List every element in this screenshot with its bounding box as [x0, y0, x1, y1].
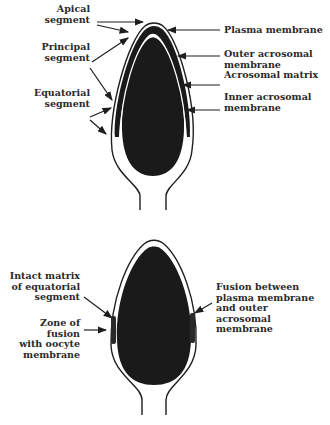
- label-equatorial-segment: Equatorial segment: [5, 88, 90, 109]
- bottom-sperm-head: [111, 240, 196, 415]
- label-principal-segment: Principal segment: [10, 42, 90, 63]
- right-equatorial-remnant: [190, 313, 195, 343]
- label-acrosomal-matrix: Acrosomal matrix: [224, 70, 318, 81]
- label-fusion-between: Fusion between plasma membrane and outer…: [216, 282, 314, 335]
- top-sperm-head: [111, 23, 193, 210]
- label-apical-segment: Apical segment: [20, 4, 90, 25]
- label-outer-acrosomal-membrane: Outer acrosomal membrane: [224, 49, 313, 70]
- left-equatorial-remnant: [111, 316, 116, 344]
- label-intact-matrix: Intact matrix of equatorial segment: [0, 271, 80, 303]
- label-inner-acrosomal-membrane: Inner acrosomal membrane: [224, 92, 311, 113]
- label-zone-of-fusion: Zone of fusion with oocyte membrane: [0, 318, 80, 360]
- label-plasma-membrane: Plasma membrane: [224, 25, 323, 36]
